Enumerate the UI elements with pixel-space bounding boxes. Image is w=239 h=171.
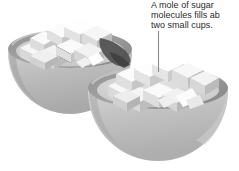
caption-line-1: A mole of sugar <box>151 0 239 10</box>
caption-line-3: two small cups. <box>151 20 239 30</box>
illustration-mole-of-sugar: A mole of sugar molecules fills ab two s… <box>0 0 239 171</box>
caption-line-2: molecules fills ab <box>151 10 239 20</box>
annotation-caption: A mole of sugar molecules fills ab two s… <box>151 0 239 31</box>
left-cup-sugar-cubes <box>20 20 112 70</box>
